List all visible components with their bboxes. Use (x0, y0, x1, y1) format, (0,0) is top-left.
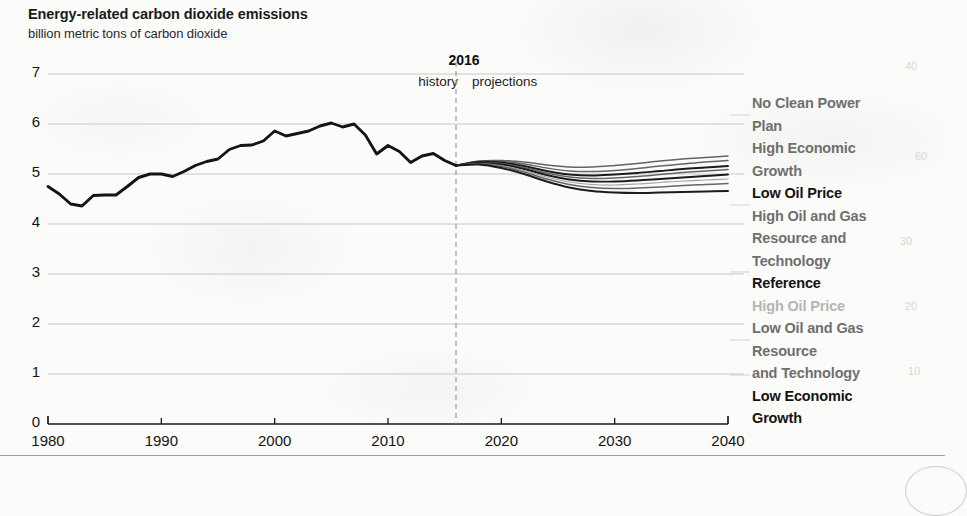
x-axis-tick-2000: 2000 (240, 432, 310, 449)
x-axis-tick-1980: 1980 (13, 432, 83, 449)
legend-item-6: Low Oil and Gas Resource and Technology (752, 317, 937, 385)
x-axis-tick-2020: 2020 (466, 432, 536, 449)
legend-item-2: Low Oil Price (752, 182, 937, 205)
x-axis-ticks (161, 418, 614, 424)
legend-item-5: High Oil Price (752, 295, 937, 318)
gridlines (48, 74, 744, 374)
chart-legend: No Clean Power PlanHigh Economic GrowthL… (752, 92, 937, 430)
y-axis-tick-4: 4 (6, 213, 40, 230)
x-axis-tick-2040: 2040 (693, 432, 763, 449)
y-axis-tick-6: 6 (6, 113, 40, 130)
projection-series-lines (456, 156, 728, 193)
x-axis-tick-1990: 1990 (126, 432, 196, 449)
legend-item-4: Reference (752, 272, 937, 295)
y-axis-tick-2: 2 (6, 313, 40, 330)
history-line (48, 123, 456, 206)
page-divider-rule (0, 455, 945, 456)
legend-line-stubs (730, 115, 750, 375)
y-axis-tick-1: 1 (6, 363, 40, 380)
legend-item-1: High Economic Growth (752, 137, 937, 182)
y-axis-tick-7: 7 (6, 63, 40, 80)
legend-item-7: Low Economic Growth (752, 385, 937, 430)
legend-item-0: No Clean Power Plan (752, 92, 937, 137)
legend-item-3: High Oil and Gas Resource and Technology (752, 205, 937, 273)
y-axis-tick-0: 0 (6, 413, 40, 430)
page-corner-arc (905, 466, 967, 516)
x-axis-tick-2010: 2010 (353, 432, 423, 449)
y-axis-tick-3: 3 (6, 263, 40, 280)
y-axis-tick-5: 5 (6, 163, 40, 180)
x-axis-tick-2030: 2030 (580, 432, 650, 449)
